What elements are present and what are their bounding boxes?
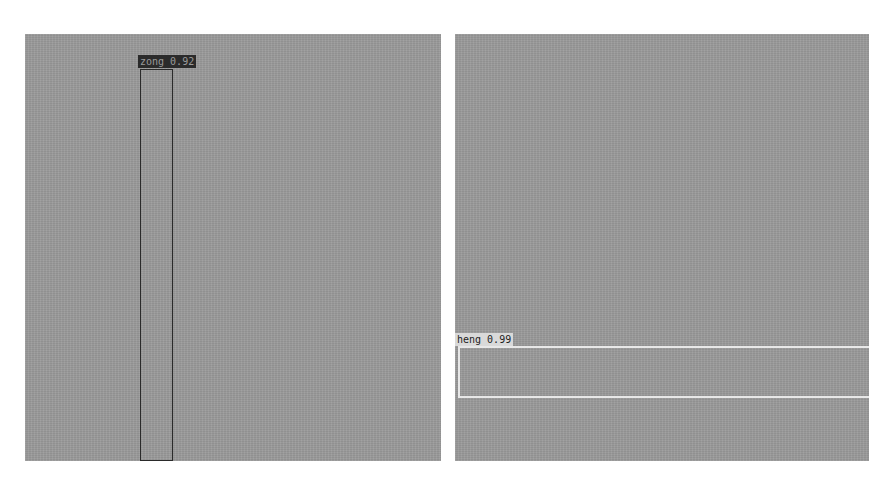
detection-box-zong <box>140 69 173 461</box>
detection-label-zong: zong 0.92 <box>138 55 196 68</box>
detection-box-heng <box>458 346 869 398</box>
right-image-panel: heng 0.99 <box>455 34 869 461</box>
left-image-panel: zong 0.92 <box>25 34 441 461</box>
detection-label-heng: heng 0.99 <box>455 333 513 346</box>
